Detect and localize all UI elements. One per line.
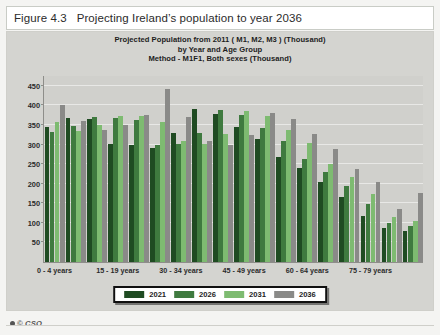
- legend-item[interactable]: 2031: [224, 290, 266, 299]
- bar-2036: [123, 125, 128, 262]
- color-swatch-icon: [274, 291, 294, 298]
- footer-divider: [6, 325, 434, 326]
- bar-2036: [291, 119, 296, 262]
- bar-group: [381, 76, 402, 262]
- x-axis-tick-label: 75 - 79 years: [349, 266, 392, 275]
- x-axis-tick-label: 0 - 4 years: [37, 266, 72, 275]
- bar-2036: [312, 134, 317, 262]
- plot-area: 50100150200250300350400450 0 - 4 years15…: [43, 76, 423, 263]
- chart-title: Projected Population from 2011 ( M1, M2,…: [7, 35, 433, 45]
- chart-subtitle: by Year and Age Group: [7, 45, 433, 55]
- x-axis-tick-label: 60 - 64 years: [286, 266, 329, 275]
- bar-2036: [376, 182, 381, 262]
- bar-2036: [81, 121, 86, 262]
- plot-wrapper: 50100150200250300350400450 0 - 4 years15…: [43, 76, 423, 263]
- legend-label: 2031: [249, 290, 266, 299]
- cso-copyright: © CSO: [10, 319, 42, 328]
- chart-frame: Projected Population from 2011 ( M1, M2,…: [6, 31, 434, 311]
- bar-group: 45 - 49 years: [234, 76, 255, 262]
- legend-item[interactable]: 2036: [274, 290, 316, 299]
- bar-2036: [144, 115, 149, 262]
- legend-label: 2021: [149, 290, 166, 299]
- y-axis-tick-label: 250: [28, 160, 44, 169]
- x-axis-tick-label: 15 - 19 years: [96, 266, 139, 275]
- bar-2036: [355, 169, 360, 262]
- bar-group: 0 - 4 years: [44, 76, 65, 262]
- bar-group: [65, 76, 86, 262]
- figure-caption-bar: Figure 4.3 Projecting Ireland’s populati…: [6, 6, 434, 30]
- y-axis-tick-label: 200: [28, 179, 44, 188]
- color-swatch-icon: [174, 291, 194, 298]
- bar-group: [86, 76, 107, 262]
- figure-page: Figure 4.3 Projecting Ireland’s populati…: [0, 0, 440, 335]
- y-axis-tick-label: 300: [28, 140, 44, 149]
- legend-label: 2036: [299, 290, 316, 299]
- legend-item[interactable]: 2021: [124, 290, 166, 299]
- chart-legend[interactable]: 2021 2026 2031 2036: [113, 286, 327, 303]
- y-axis-tick-label: 150: [28, 199, 44, 208]
- chart-title-block: Projected Population from 2011 ( M1, M2,…: [7, 35, 433, 64]
- bar-group: 75 - 79 years: [360, 76, 381, 262]
- bar-group: [402, 76, 423, 262]
- color-swatch-icon: [124, 291, 144, 298]
- bar-group: [255, 76, 276, 262]
- figure-caption-text: Projecting Ireland’s population to year …: [77, 12, 302, 24]
- bar-group: [128, 76, 149, 262]
- legend-label: 2026: [199, 290, 216, 299]
- y-axis-tick-label: 100: [28, 218, 44, 227]
- bar-2036: [228, 145, 233, 262]
- bar-series-container: 0 - 4 years15 - 19 years30 - 34 years45 …: [44, 76, 423, 262]
- bar-2036: [165, 89, 170, 262]
- y-axis-tick-label: 350: [28, 120, 44, 129]
- bar-2036: [102, 130, 107, 262]
- bar-group: 15 - 19 years: [107, 76, 128, 262]
- bar-2036: [207, 141, 212, 262]
- bar-2036: [270, 113, 275, 262]
- cso-label: © CSO: [17, 319, 42, 328]
- legend-item[interactable]: 2026: [174, 290, 216, 299]
- bar-2036: [249, 135, 254, 262]
- y-axis-tick-label: 50: [32, 238, 44, 247]
- bar-group: 30 - 34 years: [170, 76, 191, 262]
- x-axis-tick-label: 30 - 34 years: [159, 266, 202, 275]
- bar-2036: [186, 117, 191, 262]
- figure-caption: Figure 4.3 Projecting Ireland’s populati…: [7, 12, 302, 24]
- bar-group: [149, 76, 170, 262]
- bar-group: [191, 76, 212, 262]
- y-axis-tick-label: 400: [28, 101, 44, 110]
- color-swatch-icon: [224, 291, 244, 298]
- bar-group: [213, 76, 234, 262]
- bar-2036: [397, 209, 402, 262]
- figure-number: Figure 4.3: [14, 12, 67, 24]
- bar-group: [339, 76, 360, 262]
- y-axis-tick-label: 450: [28, 81, 44, 90]
- bar-2036: [418, 193, 423, 262]
- chart-subtitle-2: Method - M1F1, Both sexes (Thousand): [7, 54, 433, 64]
- bar-2036: [60, 105, 65, 262]
- bar-group: [276, 76, 297, 262]
- bar-group: [318, 76, 339, 262]
- bar-2036: [333, 149, 338, 262]
- bar-group: 60 - 64 years: [297, 76, 318, 262]
- x-axis-tick-label: 45 - 49 years: [223, 266, 266, 275]
